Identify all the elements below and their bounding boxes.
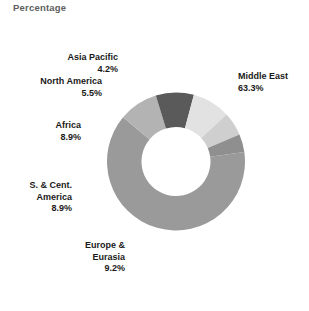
slice-label-s-cent-america-value: 8.9% [29,203,72,215]
slice-label-north-america-category: North America [40,76,102,88]
slice-label-europe-eurasia-category-line2: Eurasia [85,252,125,264]
donut-svg [106,64,246,259]
slice-label-s-cent-america: S. & Cent. America 8.9% [29,180,72,215]
slice-label-middle-east: Middle East 63.3% [238,71,288,94]
slice-label-africa-category: Africa [55,120,81,132]
page-title: Percentage [13,2,66,13]
slice-label-africa-value: 8.9% [55,132,81,144]
slice-label-asia-pacific-category: Asia Pacific [67,52,118,64]
slice-label-europe-eurasia: Europe & Eurasia 9.2% [85,240,125,275]
slice-label-asia-pacific-value: 4.2% [67,64,118,76]
slice-label-europe-eurasia-category-line1: Europe & [85,240,125,252]
donut-chart [106,64,246,259]
slice-label-africa: Africa 8.9% [55,120,81,143]
slice-label-europe-eurasia-value: 9.2% [85,263,125,275]
slice-label-middle-east-value: 63.3% [238,83,288,95]
slice-label-north-america: North America 5.5% [40,76,102,99]
slice-label-north-america-value: 5.5% [40,88,102,100]
slice-label-asia-pacific: Asia Pacific 4.2% [67,52,118,75]
donut-slices [107,93,245,231]
slice-label-s-cent-america-category-line2: America [29,192,72,204]
slice-label-s-cent-america-category-line1: S. & Cent. [29,180,72,192]
chart-page: Percentage Asia Pacific 4.2% North Ameri… [0,0,309,311]
slice-label-middle-east-category: Middle East [238,71,288,83]
